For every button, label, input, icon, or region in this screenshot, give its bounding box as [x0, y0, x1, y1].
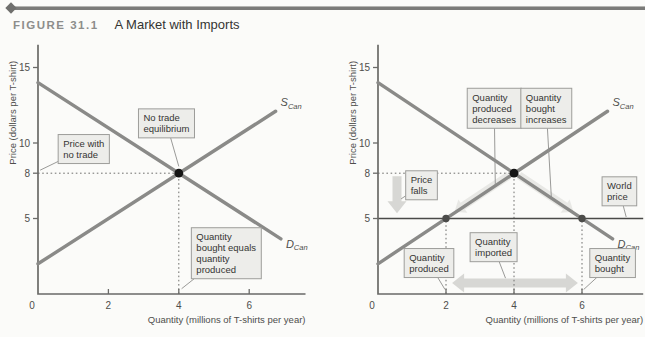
annotation-pointer-line	[499, 262, 505, 278]
y-axis-label: Price (dollars per T-shirt)	[7, 61, 18, 165]
y-tick-label: 8	[24, 168, 30, 179]
demand-curve-label: DCan	[286, 238, 308, 253]
annotation-text: Quantityimported	[475, 236, 512, 258]
annotation-pointer-line	[495, 128, 496, 185]
figure-number: FIGURE 31.1	[13, 19, 99, 31]
x-axis-label: Quantity (millions of T-shirts per year)	[486, 314, 644, 325]
annotation-pointer-line	[182, 279, 195, 289]
x-tick-label: 0	[369, 300, 375, 311]
annotation-callout: Worldprice	[602, 177, 637, 217]
y-tick-label: 8	[364, 168, 370, 179]
market-with-imports-chart: 5810150246Price (dollars per T-shirt)Qua…	[330, 36, 645, 337]
x-tick-label: 4	[176, 300, 182, 311]
annotation-pointer-line	[584, 278, 597, 290]
annotation-callout: Quantityimported	[470, 233, 517, 278]
figure-header: FIGURE 31.1A Market with Imports	[13, 15, 240, 33]
annotation-text: Quantityproduced	[409, 252, 449, 274]
y-tick-label: 5	[24, 213, 30, 224]
annotation-pointer-line	[401, 196, 406, 199]
annotation-pointer-line	[623, 206, 626, 217]
equilibrium-point	[510, 169, 519, 178]
y-tick-label: 10	[359, 138, 371, 149]
supply-curve-label: SCan	[613, 96, 634, 111]
annotation-pointer-line	[547, 128, 551, 198]
x-tick-label: 6	[579, 300, 585, 311]
y-tick-label: 15	[19, 62, 31, 73]
equilibrium-point	[174, 169, 183, 178]
x-tick-label: 2	[443, 300, 449, 311]
x-axis-label: Quantity (millions of T-shirts per year)	[148, 314, 306, 325]
x-tick-label: 6	[246, 300, 252, 311]
figure-title: A Market with Imports	[115, 17, 240, 32]
x-tick-label: 2	[106, 300, 112, 311]
annotation-callout: Pricefalls	[401, 171, 437, 200]
imports-quantity-arrow	[452, 274, 578, 293]
y-tick-label: 5	[364, 213, 370, 224]
annotation-pointer-line	[438, 278, 445, 290]
no-trade-market-chart: 5810150246Price (dollars per T-shirt)Qua…	[8, 36, 322, 337]
world-price-intersection-point	[442, 215, 449, 222]
rule-diamond-icon	[5, 2, 16, 13]
annotation-pointer-line	[40, 161, 58, 170]
annotation-callout: Price withno trade	[40, 135, 109, 171]
y-axis-label: Price (dollars per T-shirt)	[347, 61, 358, 165]
world-price-intersection-point	[578, 215, 585, 222]
price-falls-arrow	[388, 176, 407, 213]
x-tick-label: 0	[29, 300, 35, 311]
y-tick-label: 15	[359, 62, 371, 73]
figure-top-rule	[10, 6, 645, 10]
annotation-callout: Quantitybought	[584, 249, 636, 290]
supply-curve-label: SCan	[281, 96, 302, 111]
annotation-pointer-line	[171, 138, 179, 167]
annotation-callout: No tradeequilibrium	[138, 109, 194, 167]
y-tick-label: 10	[19, 138, 31, 149]
textbook-figure-page: { "figure": { "label": "FIGURE 31.1", "t…	[0, 0, 645, 337]
x-tick-label: 4	[511, 300, 517, 311]
annotation-callout: Quantityproduced	[404, 249, 454, 290]
annotation-callout: Quantitybought equalsquantityproduced	[182, 228, 262, 289]
